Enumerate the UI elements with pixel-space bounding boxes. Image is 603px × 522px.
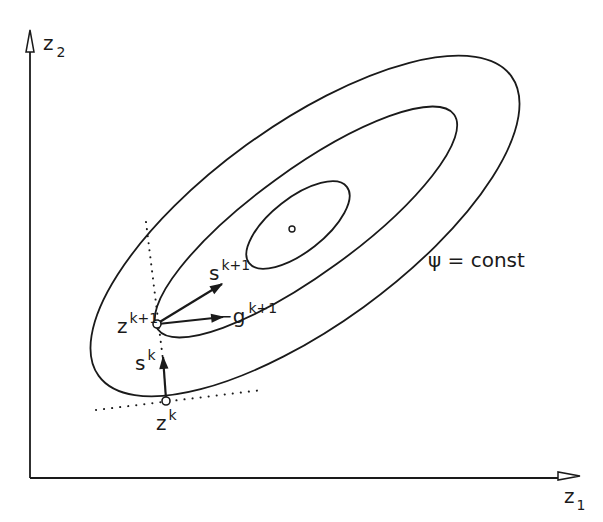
label-sk1: sk+1 [209,257,250,285]
y-axis-label: z2 [43,31,65,60]
middle-contour [127,72,484,371]
outer-contour [40,0,570,457]
x-axis-label: z1 [564,484,585,513]
y-axis-arrow-icon [26,30,34,52]
vectors [158,284,223,399]
contours [40,0,570,457]
label-zk: zk [156,407,178,435]
point-zk [162,397,170,405]
label-zk1: zk+1 [117,310,158,338]
minimum-point [289,226,295,232]
inner-contour [233,166,364,285]
x-axis-arrow-icon [558,472,580,480]
vector-sk [163,357,166,399]
tangent-line-zk1 [146,222,163,360]
label-sk: sk [135,347,156,375]
contour-label: ψ = const [428,248,525,272]
label-gk1: −gk+1 [216,300,277,328]
contour-diagram: z2 z1 ψ = const zk+1 zk sk sk+1 −gk+1 [0,0,603,522]
